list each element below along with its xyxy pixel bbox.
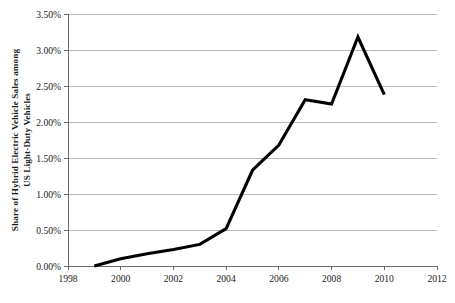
x-tick-label-2010: 2010 [375, 273, 394, 284]
x-tick-label-2012: 2012 [427, 273, 446, 284]
x-axis-tick-marks [68, 266, 437, 270]
y-axis-tick-marks [64, 14, 68, 266]
x-tick-label-2006: 2006 [269, 273, 288, 284]
x-tick-label-2002: 2002 [164, 273, 183, 284]
x-axis-tick-labels: 1998 2000 2002 2004 2006 2008 2010 2012 [58, 273, 446, 284]
x-tick-label-2004: 2004 [217, 273, 236, 284]
axes [68, 14, 437, 266]
x-tick-label-2000: 2000 [111, 273, 130, 284]
y-tick-label-1-50: 1.50% [36, 153, 61, 164]
y-tick-label-2-00: 2.00% [36, 117, 61, 128]
x-tick-label-1998: 1998 [58, 273, 77, 284]
data-series-line [94, 37, 384, 266]
x-tick-label-2008: 2008 [322, 273, 341, 284]
y-tick-label-2-50: 2.50% [36, 81, 61, 92]
y-tick-label-3-50: 3.50% [36, 9, 61, 20]
y-tick-label-3-00: 3.00% [36, 45, 61, 56]
y-tick-label-0-00: 0.00% [36, 261, 61, 272]
line-chart-plot: 3.50% 3.00% 2.50% 2.00% 1.50% 1.00% 0.50… [0, 0, 455, 303]
chart-figure: Share of Hybrid Electric Vehicle Sales a… [0, 0, 455, 303]
gridlines [68, 14, 437, 230]
y-axis-tick-labels: 3.50% 3.00% 2.50% 2.00% 1.50% 1.00% 0.50… [36, 9, 61, 272]
y-tick-label-0-50: 0.50% [36, 225, 61, 236]
y-tick-label-1-00: 1.00% [36, 189, 61, 200]
